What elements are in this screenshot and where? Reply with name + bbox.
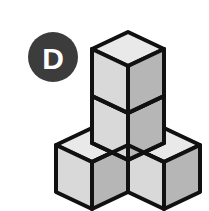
option-badge[interactable]: D (28, 32, 78, 82)
isometric-cube-figure: D (0, 0, 209, 211)
figure-canvas: D (0, 0, 209, 211)
badge-label: D (42, 42, 64, 75)
